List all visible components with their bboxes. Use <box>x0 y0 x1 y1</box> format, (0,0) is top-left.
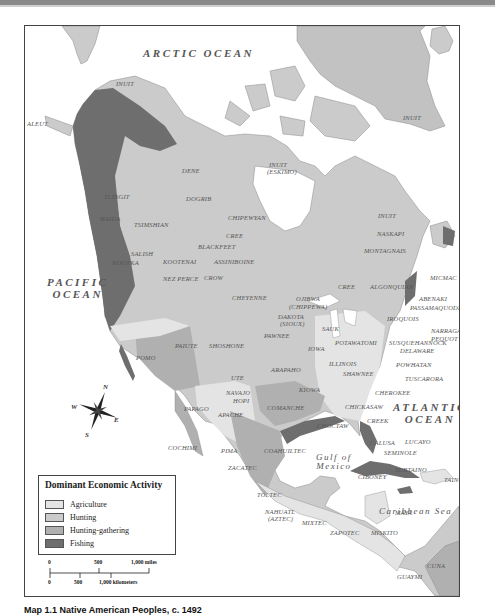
people-label: ARAPAHO <box>271 367 301 374</box>
people-label: MIXTEC <box>302 520 327 527</box>
people-label: COMANCHE <box>267 405 304 412</box>
people-label: APACHE <box>218 412 243 419</box>
atlantic-ocean-label: ATLANTIC OCEAN <box>393 401 460 425</box>
people-label: HOPI <box>233 398 249 405</box>
legend-label: Hunting <box>70 513 96 522</box>
people-label: ILLINOIS <box>329 361 357 368</box>
scale-miles-zero: 0 <box>48 559 51 565</box>
people-label: MAYA <box>395 510 412 517</box>
people-label: TUSCARORA <box>405 376 443 383</box>
pacific-ocean-line2: OCEAN <box>47 288 108 300</box>
people-label: SHOSHONE <box>209 343 244 350</box>
people-label: PAPAGO <box>184 406 209 413</box>
people-label: MICMAC <box>430 275 457 282</box>
people-label: CREEK <box>367 418 389 425</box>
people-label: SUBTAINO <box>395 467 427 474</box>
people-label: INUIT <box>403 115 421 122</box>
people-label: CUNA <box>427 563 445 570</box>
people-label: TLINGIT <box>104 194 130 201</box>
scale-km-zero: 0 <box>48 579 51 585</box>
people-label: NOOTKA <box>112 260 139 267</box>
people-label: IROQUOIS <box>387 316 419 323</box>
people-label: POWHATAN <box>396 362 432 369</box>
people-label: SAUK <box>322 326 339 333</box>
people-label: SALISH <box>131 251 153 258</box>
people-label: CHEYENNE <box>232 295 267 302</box>
people-label: COAHUILTEC <box>264 448 306 455</box>
people-label: PIMA <box>221 448 237 455</box>
hunting-gathering-swatch <box>45 526 64 535</box>
people-label: POTAWATOMI <box>335 340 377 347</box>
people-label: INUIT <box>378 213 396 220</box>
people-label: GUAYMI <box>397 574 422 581</box>
legend-label: Fishing <box>70 539 94 548</box>
caribbean-sea-label: Caribbean Sea <box>379 507 452 516</box>
people-label: CIBONEY <box>358 474 387 481</box>
people-label: CHICKASAW <box>345 404 383 411</box>
people-label: ABENAKI <box>419 296 447 303</box>
legend-label: Hunting-gathering <box>70 526 129 535</box>
people-label: CROW <box>204 275 223 282</box>
people-label: TSIMSHIAN <box>134 222 169 229</box>
people-label: TAINO <box>444 477 460 484</box>
people-label: ALGONQUIAN <box>370 284 413 291</box>
legend-title: Dominant Economic Activity <box>45 480 162 490</box>
people-label: SHAWNEE <box>343 371 374 378</box>
compass-s: S <box>85 431 89 439</box>
people-label: (AZTEC) <box>268 516 293 523</box>
people-label: (SIOUX) <box>280 321 305 328</box>
atlantic-ocean-line1: ATLANTIC <box>393 401 460 413</box>
people-label: BLACKFEET <box>198 244 236 251</box>
people-label: NASKAPI <box>377 231 404 238</box>
people-label: HAIDA <box>100 216 121 223</box>
compass-w: W <box>71 403 77 411</box>
scale-km-max: 1,000 kilometers <box>99 579 138 585</box>
people-label: KIOWA <box>299 387 320 394</box>
scale-miles-max: 1,000 miles <box>131 559 157 565</box>
compass-rose: N W E S <box>73 386 123 436</box>
legend: Dominant Economic Activity Agriculture H… <box>38 475 176 555</box>
people-label: ZAPOTEC <box>330 530 360 537</box>
people-label: MONTAGNAIS <box>364 248 406 255</box>
people-label: NARRAGANSETT <box>431 328 460 335</box>
people-label: UTE <box>231 375 244 382</box>
people-label: COCHIMI <box>168 445 197 452</box>
people-label: DENE <box>182 168 200 175</box>
people-label: CHEROKEE <box>375 390 411 397</box>
people-label: PASSAMAQUODDY <box>410 305 460 312</box>
people-label: (CHIPPEWA) <box>289 304 327 311</box>
fishing-swatch <box>45 539 64 548</box>
people-label: OJIBWA <box>296 296 320 303</box>
scale-miles-mid: 500 <box>94 559 102 565</box>
people-label: CREE <box>338 284 355 291</box>
people-label: PAWNEE <box>264 333 290 340</box>
people-label: CHIPEWYAN <box>228 215 266 222</box>
people-label: CREE <box>226 233 243 240</box>
people-label: NEZ PERCE <box>163 276 199 283</box>
people-label: SUSQUEHANNOCK <box>389 340 447 347</box>
pacific-ocean-label: PACIFIC OCEAN <box>47 276 108 300</box>
people-label: ASSINIBOINE <box>214 259 254 266</box>
compass-e: E <box>114 416 119 424</box>
people-label: MISKITO <box>371 530 398 537</box>
legend-item-hunting-gathering: Hunting-gathering <box>45 525 129 535</box>
people-label: PAIUTE <box>175 343 198 350</box>
people-label: NAVAJO <box>226 390 250 397</box>
legend-item-agriculture: Agriculture <box>45 499 107 509</box>
legend-label: Agriculture <box>70 500 107 509</box>
people-label: SEMINOLE <box>384 450 417 457</box>
scale-km-mid: 500 <box>74 579 82 585</box>
legend-item-hunting: Hunting <box>45 512 96 522</box>
people-label: ZACATEC <box>228 465 257 472</box>
legend-item-fishing: Fishing <box>45 538 94 548</box>
page-top-rule-light <box>0 5 495 7</box>
map-caption: Map 1.1 Native American Peoples, c. 1492 <box>24 605 202 615</box>
compass-star-icon <box>73 386 123 436</box>
people-label: KOOTENAI <box>163 259 196 266</box>
gulf-line2: Mexico <box>316 462 352 471</box>
pacific-ocean-line1: PACIFIC <box>47 276 108 288</box>
people-label: (ESKIMO) <box>267 169 297 176</box>
people-label: LUCAYO <box>405 439 431 446</box>
people-label: CHOCTAW <box>317 423 349 430</box>
people-label: POMO <box>136 355 156 362</box>
